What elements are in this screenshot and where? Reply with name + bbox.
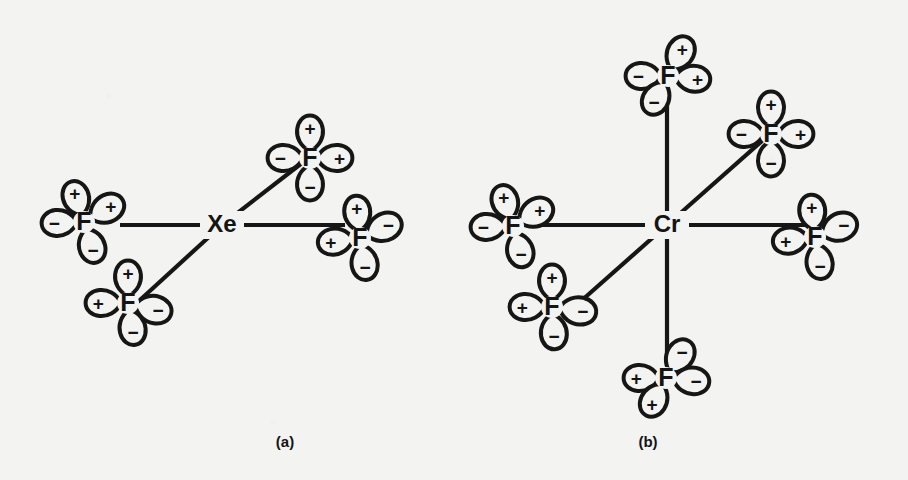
orbital-sign-b-f-lower-left-0: + [546, 267, 557, 288]
atom-label-a-f-left: F [76, 207, 91, 235]
orbital-sign-b-f-top-0: + [677, 39, 688, 60]
panel-caption-a: (a) [276, 433, 294, 450]
orbital-sign-b-f-left-0: + [498, 187, 509, 208]
atom-label-b-f-left: F [505, 211, 520, 239]
atom-group-b-f-left: ++−−F [471, 185, 554, 267]
orbital-sign-a-f-lower-left-1: + [93, 293, 104, 314]
atom-group-a-f-right: +−+−F [318, 196, 402, 280]
atom-label-b-f-top: F [660, 61, 675, 89]
orbital-sign-b-f-upper-right-0: + [765, 94, 776, 115]
orbital-sign-a-f-lower-left-2: − [153, 300, 164, 321]
atom-group-a-f-upper-right: +−+−F [268, 116, 353, 201]
panel-b: +−+−F+−+−F++−−F+−+−F++−−F−+−+FCr(b) [471, 36, 858, 450]
orbital-sign-b-f-top-3: − [649, 92, 660, 113]
orbital-sign-b-f-bottom-3: + [647, 394, 658, 415]
atom-group-b-f-right: +−+−F [773, 195, 857, 279]
orbital-sign-a-f-lower-left-0: + [122, 263, 133, 284]
center-atom-label-a: Xe [207, 210, 236, 237]
atom-group-b-f-upper-right: +−+−F [729, 92, 814, 177]
atom-label-b-f-upper-right: F [763, 119, 778, 147]
atom-label-b-f-lower-left: F [544, 292, 559, 320]
orbital-sign-a-f-left-3: − [88, 240, 99, 261]
atom-group-a-f-left: ++−−F [42, 181, 125, 263]
orbital-sign-b-f-upper-right-2: + [795, 124, 806, 145]
orbital-sign-a-f-upper-right-0: + [304, 118, 315, 139]
orbital-sign-a-f-upper-right-2: + [334, 148, 345, 169]
orbital-sign-b-f-left-1: + [534, 200, 545, 221]
orbital-sign-a-f-right-3: − [360, 257, 371, 278]
atom-label-a-f-right: F [352, 223, 367, 251]
panel-a: ++−−F++−−F+−+−F+−+−FXe(a) [42, 116, 402, 450]
orbital-sign-b-f-right-1: − [838, 215, 849, 236]
atom-label-b-f-right: F [807, 222, 822, 250]
center-atom-label-b: Cr [654, 210, 681, 237]
orbital-sign-a-f-left-0: + [69, 183, 80, 204]
atom-group-b-f-top: +−+−F [626, 36, 711, 115]
orbital-sign-b-f-lower-left-2: − [577, 301, 588, 322]
orbital-sign-b-f-lower-left-3: − [549, 326, 560, 347]
panel-caption-b: (b) [638, 433, 657, 450]
atom-group-b-f-bottom: −+−+F [624, 339, 710, 416]
orbital-sign-b-f-bottom-1: + [631, 368, 642, 389]
atom-label-a-f-upper-right: F [302, 143, 317, 171]
orbital-sign-b-f-top-1: − [633, 66, 644, 87]
orbital-sign-b-f-left-2: − [478, 217, 489, 238]
orbital-sign-b-f-upper-right-3: − [765, 153, 776, 174]
orbital-sign-b-f-bottom-2: − [691, 371, 702, 392]
orbital-sign-b-f-upper-right-1: − [736, 124, 747, 145]
orbital-sign-a-f-left-2: − [49, 213, 60, 234]
orbital-sign-b-f-right-2: + [780, 231, 791, 252]
orbital-sign-b-f-right-0: + [806, 197, 817, 218]
orbital-sign-a-f-left-1: + [105, 196, 116, 217]
orbital-sign-a-f-right-0: + [351, 198, 362, 219]
atom-label-b-f-bottom: F [658, 363, 673, 391]
orbital-sign-a-f-right-2: + [325, 232, 336, 253]
atom-group-b-f-lower-left: ++−−F [510, 265, 597, 350]
orbital-sign-a-f-lower-left-3: − [128, 322, 139, 343]
orbital-sign-b-f-right-3: − [815, 256, 826, 277]
atom-label-a-f-lower-left: F [120, 288, 135, 316]
orbital-sign-b-f-bottom-0: − [677, 342, 688, 363]
panels-layer: ++−−F++−−F+−+−F+−+−FXe(a)+−+−F+−+−F++−−F… [42, 36, 858, 450]
atom-group-a-f-lower-left: ++−−F [86, 261, 172, 345]
orbital-sign-b-f-lower-left-1: + [517, 297, 528, 318]
orbital-sign-a-f-upper-right-3: − [304, 177, 315, 198]
orbital-sign-a-f-right-1: − [383, 215, 394, 236]
orbital-sign-a-f-upper-right-1: − [275, 148, 286, 169]
orbital-sign-b-f-left-3: − [516, 244, 527, 265]
figure-canvas: ++−−F++−−F+−+−F+−+−FXe(a)+−+−F+−+−F++−−F… [0, 0, 908, 480]
orbital-sign-b-f-top-2: + [692, 69, 703, 90]
orbital-diagram-figure: ++−−F++−−F+−+−F+−+−FXe(a)+−+−F+−+−F++−−F… [0, 0, 908, 480]
